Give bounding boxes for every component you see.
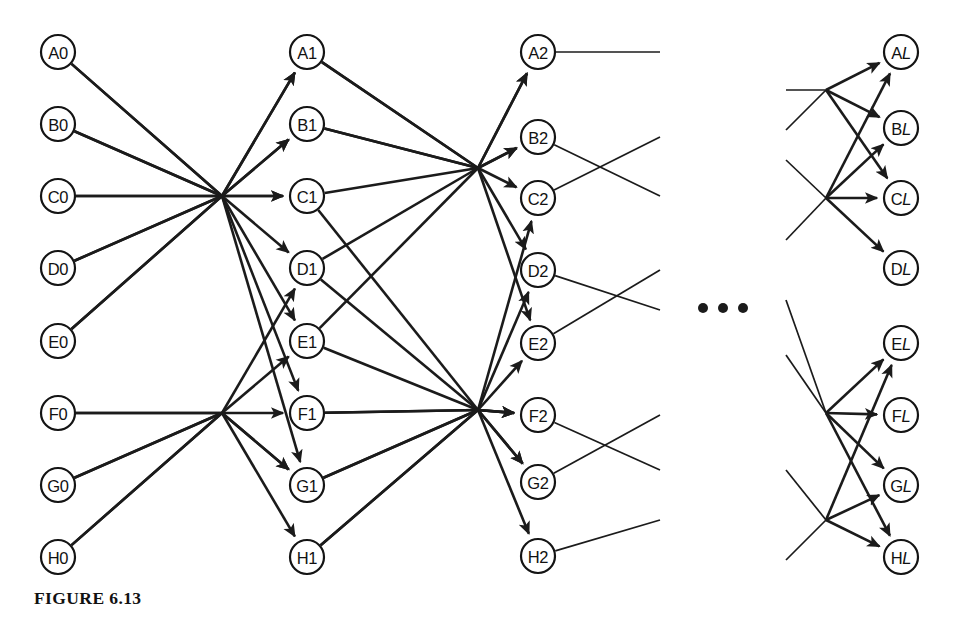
node-label: G2: [527, 474, 549, 492]
node-label: CL: [891, 190, 912, 208]
node-e2: E2: [521, 326, 555, 360]
node-f0: F0: [41, 396, 75, 430]
node-g1: G1: [290, 468, 324, 502]
node-d0: D0: [41, 251, 75, 285]
node-label: GL: [890, 477, 912, 495]
node-d1: D1: [290, 251, 324, 285]
node-label: C1: [297, 188, 318, 206]
node-e1: E1: [290, 324, 324, 358]
node-label: F2: [529, 407, 548, 425]
node-label: HL: [891, 549, 912, 567]
node-label: C2: [528, 190, 549, 208]
figure-caption: FIGURE 6.13: [34, 588, 141, 609]
node-label: E0: [48, 333, 68, 351]
node-label: C0: [48, 188, 69, 206]
node-label: G0: [47, 477, 69, 495]
node-label: DL: [891, 260, 912, 278]
node-gl: GL: [884, 468, 918, 502]
node-fl: FL: [884, 398, 918, 432]
node-cl: CL: [884, 181, 918, 215]
node-a2: A2: [521, 35, 555, 69]
node-label: H2: [528, 548, 549, 566]
node-label: B0: [48, 116, 68, 134]
node-label: H0: [48, 549, 69, 567]
node-b0: B0: [41, 107, 75, 141]
node-dl: DL: [884, 251, 918, 285]
node-label: A0: [48, 44, 68, 62]
node-b2: B2: [521, 120, 555, 154]
node-g0: G0: [41, 468, 75, 502]
nodes-layer: A0B0C0D0E0F0G0H0A1B1C1D1E1F1G1H1A2B2C2D2…: [41, 35, 918, 574]
node-c1: C1: [290, 179, 324, 213]
node-label: H1: [297, 549, 318, 567]
node-label: F0: [49, 405, 68, 423]
node-label: AL: [891, 44, 911, 62]
ellipsis-dot-2: [718, 303, 728, 313]
node-label: D0: [48, 260, 69, 278]
node-bl: BL: [884, 111, 918, 145]
ellipsis-layer: [698, 303, 748, 313]
node-label: BL: [891, 120, 911, 138]
node-a1: A1: [290, 35, 324, 69]
node-c0: C0: [41, 179, 75, 213]
node-label: G1: [296, 477, 318, 495]
node-f2: F2: [521, 398, 555, 432]
figure-container: A0B0C0D0E0F0G0H0A1B1C1D1E1F1G1H1A2B2C2D2…: [0, 0, 959, 625]
ellipsis-dot-1: [698, 303, 708, 313]
node-d2: D2: [521, 253, 555, 287]
network-diagram: A0B0C0D0E0F0G0H0A1B1C1D1E1F1G1H1A2B2C2D2…: [0, 0, 959, 625]
node-h2: H2: [521, 539, 555, 573]
node-label: B2: [528, 129, 548, 147]
node-al: AL: [884, 35, 918, 69]
node-label: B1: [297, 116, 317, 134]
node-a0: A0: [41, 35, 75, 69]
node-c2: C2: [521, 181, 555, 215]
node-f1: F1: [290, 396, 324, 430]
node-label: A1: [297, 44, 317, 62]
node-b1: B1: [290, 107, 324, 141]
node-h1: H1: [290, 540, 324, 574]
node-label: D2: [528, 262, 549, 280]
node-h0: H0: [41, 540, 75, 574]
node-label: A2: [528, 44, 548, 62]
node-label: EL: [891, 335, 911, 353]
node-label: E1: [297, 333, 317, 351]
edges-layer: [71, 52, 891, 560]
node-label: F1: [298, 405, 317, 423]
node-hl: HL: [884, 540, 918, 574]
ellipsis-dot-3: [738, 303, 748, 313]
node-label: D1: [297, 260, 318, 278]
node-label: E2: [528, 335, 548, 353]
node-el: EL: [884, 326, 918, 360]
node-g2: G2: [521, 465, 555, 499]
node-label: FL: [892, 407, 911, 425]
node-e0: E0: [41, 324, 75, 358]
